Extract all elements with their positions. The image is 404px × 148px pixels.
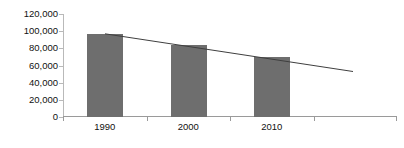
y-axis-tick-label: 40,000	[0, 78, 58, 88]
y-axis-tick-mark	[59, 83, 63, 84]
plot-area	[63, 14, 397, 117]
y-axis-line	[63, 14, 64, 117]
x-axis-label-group: 1990 2000 2010	[63, 121, 397, 137]
y-axis-tick-label: 100,000	[0, 26, 58, 36]
y-axis-tick-mark	[59, 66, 63, 67]
y-axis-tick-label: 20,000	[0, 95, 58, 105]
y-axis-tick-mark	[59, 31, 63, 32]
x-axis-tick-label: 1990	[63, 121, 147, 133]
y-axis-tick-label: 0	[0, 112, 58, 122]
x-axis-tick-label: 2010	[230, 121, 314, 133]
y-axis-tick-mark	[59, 14, 63, 15]
bar-1990	[87, 34, 123, 117]
x-axis-tick-label: 2000	[147, 121, 231, 133]
bar-2000	[171, 45, 207, 117]
y-axis-tick-mark	[59, 48, 63, 49]
y-axis-tick-label: 60,000	[0, 61, 58, 71]
bar-chart: 120,000 100,000 80,000 60,000 40,000 20,…	[0, 0, 404, 148]
y-axis-label-group: 120,000 100,000 80,000 60,000 40,000 20,…	[0, 0, 58, 148]
y-axis-tick-label: 80,000	[0, 43, 58, 53]
bar-2010	[254, 57, 290, 117]
y-axis-tick-mark	[59, 100, 63, 101]
y-axis-tick-label: 120,000	[0, 9, 58, 19]
